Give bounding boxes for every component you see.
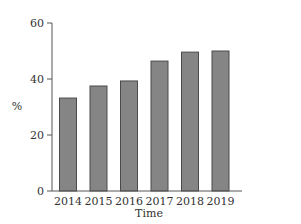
y-tick-label: 20 bbox=[30, 129, 44, 142]
bar-2014 bbox=[60, 98, 77, 191]
x-tick-label: 2019 bbox=[207, 195, 235, 208]
y-tick-label: 40 bbox=[30, 73, 44, 86]
x-axis-label: Time bbox=[135, 207, 163, 220]
x-tick-label: 2015 bbox=[85, 195, 113, 208]
bar-2019 bbox=[212, 51, 229, 191]
y-ticks-group: 0204060 bbox=[30, 17, 52, 198]
bars-group bbox=[60, 51, 230, 191]
bar-chart: 0204060 201420152016201720182019 % Time bbox=[0, 0, 301, 224]
y-tick-label: 60 bbox=[30, 17, 44, 30]
y-tick-label: 0 bbox=[37, 185, 44, 198]
bar-2017 bbox=[151, 61, 168, 191]
x-tick-label: 2018 bbox=[176, 195, 204, 208]
bar-2018 bbox=[182, 52, 199, 191]
bar-2016 bbox=[121, 81, 138, 191]
bar-2015 bbox=[90, 86, 107, 191]
y-axis-label: % bbox=[12, 100, 22, 113]
x-tick-label: 2014 bbox=[54, 195, 82, 208]
